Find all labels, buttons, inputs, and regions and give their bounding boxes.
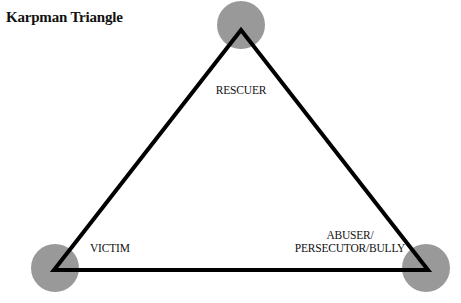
triangle-diagram — [0, 0, 461, 303]
persecutor-label-line1: ABUSER/ — [285, 229, 415, 242]
rescuer-label: RESCUER — [211, 84, 271, 97]
rescuer-node-circle — [217, 1, 265, 49]
victim-label: VICTIM — [90, 242, 140, 255]
persecutor-label-line2: PERSECUTOR/BULLY — [285, 242, 415, 255]
persecutor-label: ABUSER/ PERSECUTOR/BULLY — [285, 229, 415, 255]
